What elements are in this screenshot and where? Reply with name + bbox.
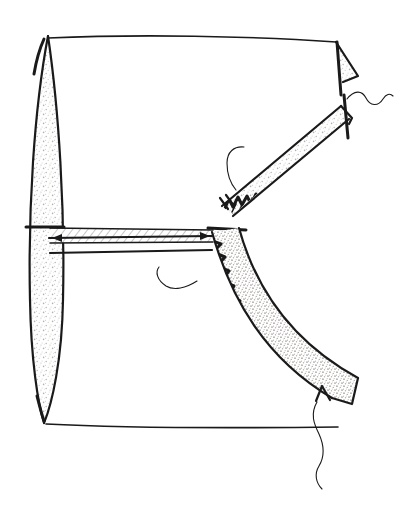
upper-band-lower-edge	[233, 119, 349, 216]
enclosure-bottom-edge	[46, 424, 338, 428]
leader-center-hook	[157, 267, 197, 288]
upper-band-end-cap	[344, 95, 348, 138]
upper-band-fill	[222, 106, 349, 216]
lower-crescent-band	[210, 228, 358, 404]
sketch-canvas	[0, 0, 413, 512]
leader-upper-band-hook	[227, 147, 244, 190]
leader-upper-right-wave	[347, 92, 393, 104]
crossbar-lower-line	[50, 250, 212, 253]
enclosure-top-edge	[48, 36, 336, 42]
crossbar-bottom-line	[50, 242, 213, 243]
upper-band-upper-edge	[222, 106, 341, 206]
sketch-figure	[0, 0, 413, 512]
lower-band-fill	[212, 228, 358, 404]
leader-lines	[157, 92, 393, 489]
leader-bottom-wave	[313, 402, 323, 489]
top-right-wedge	[336, 42, 358, 95]
upper-sawtooth-band	[220, 95, 352, 216]
